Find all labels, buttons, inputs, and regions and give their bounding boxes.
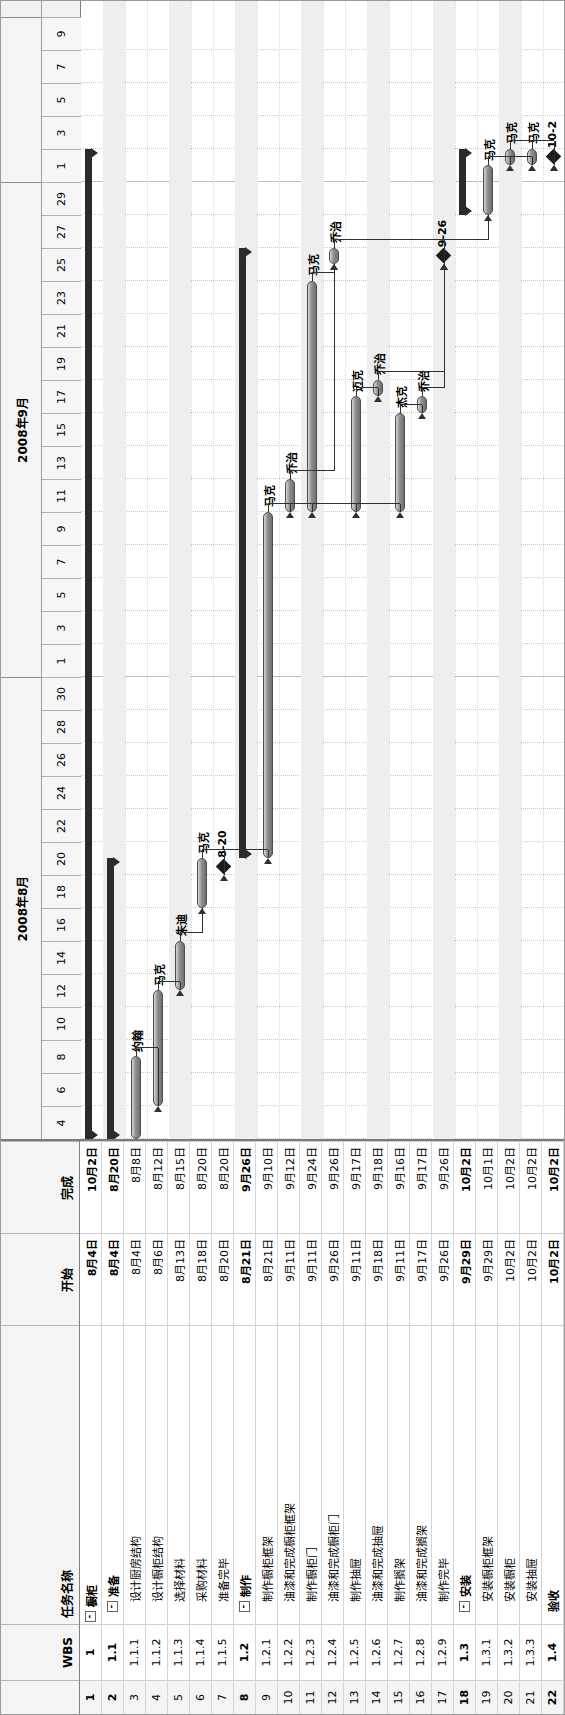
table-row[interactable]: 71.1.5准备完毕8月20日8月20日 <box>212 1141 234 1714</box>
task-name-cell[interactable]: 采购材料 <box>190 1325 211 1624</box>
finish-date-cell[interactable]: 10月2日 <box>80 1141 101 1233</box>
column-header-id[interactable] <box>1 1680 79 1714</box>
gantt-task-bar[interactable] <box>131 1057 141 1140</box>
start-date-cell[interactable]: 9月26日 <box>432 1233 453 1325</box>
collapse-toggle-icon[interactable]: - <box>239 1601 250 1612</box>
start-date-cell[interactable]: 8月21日 <box>234 1233 255 1325</box>
finish-date-cell[interactable]: 8月12日 <box>146 1141 167 1233</box>
start-date-cell[interactable]: 9月11日 <box>300 1233 321 1325</box>
finish-date-cell[interactable]: 8月15日 <box>168 1141 189 1233</box>
task-name-cell[interactable]: 油漆和完成抽屉 <box>366 1325 387 1624</box>
start-date-cell[interactable]: 8月6日 <box>146 1233 167 1325</box>
finish-date-cell[interactable]: 9月26日 <box>322 1141 343 1233</box>
task-name-cell[interactable]: 制作橱柜门 <box>300 1325 321 1624</box>
finish-date-cell[interactable]: 9月10日 <box>256 1141 277 1233</box>
table-row[interactable]: 31.1.1设计厨房结构8月4日8月8日 <box>124 1141 146 1714</box>
column-header-wbs[interactable]: WBS <box>1 1624 79 1680</box>
start-date-cell[interactable]: 9月29日 <box>454 1233 475 1325</box>
task-name-cell[interactable]: 设计橱柜结构 <box>146 1325 167 1624</box>
start-date-cell[interactable]: 10月2日 <box>520 1233 541 1325</box>
task-name-cell[interactable]: -准备 <box>102 1325 123 1624</box>
finish-date-cell[interactable]: 8月20日 <box>102 1141 123 1233</box>
start-date-cell[interactable]: 8月4日 <box>80 1233 101 1325</box>
column-header-name[interactable]: 任务名称 <box>1 1325 79 1624</box>
task-name-cell[interactable]: 制作完毕 <box>432 1325 453 1624</box>
table-row[interactable]: 141.2.6油漆和完成抽屉9月18日9月18日 <box>366 1141 388 1714</box>
task-name-cell[interactable]: 制作橱柜框架 <box>256 1325 277 1624</box>
start-date-cell[interactable]: 8月4日 <box>124 1233 145 1325</box>
collapse-toggle-icon[interactable]: - <box>85 1611 96 1622</box>
gantt-task-bar[interactable] <box>197 859 207 909</box>
start-date-cell[interactable]: 9月11日 <box>344 1233 365 1325</box>
table-row[interactable]: 11-橱柜8月4日10月2日 <box>80 1141 102 1714</box>
task-name-cell[interactable]: 选择材料 <box>168 1325 189 1624</box>
task-name-cell[interactable]: -制作 <box>234 1325 255 1624</box>
task-name-cell[interactable]: 安装抽屉 <box>520 1325 541 1624</box>
start-date-cell[interactable]: 8月18日 <box>190 1233 211 1325</box>
task-name-cell[interactable]: 准备完毕 <box>212 1325 233 1624</box>
table-row[interactable]: 161.2.8油漆和完成搁架9月17日9月17日 <box>410 1141 432 1714</box>
task-name-cell[interactable]: 验收 <box>542 1325 563 1624</box>
collapse-toggle-icon[interactable]: - <box>459 1601 470 1612</box>
task-name-cell[interactable]: 设计厨房结构 <box>124 1325 145 1624</box>
task-name-cell[interactable]: 制作抽屉 <box>344 1325 365 1624</box>
finish-date-cell[interactable]: 9月16日 <box>388 1141 409 1233</box>
gantt-task-bar[interactable] <box>263 512 273 859</box>
table-row[interactable]: 201.3.2安装橱柜10月2日10月2日 <box>498 1141 520 1714</box>
table-row[interactable]: 41.1.2设计橱柜结构8月6日8月12日 <box>146 1141 168 1714</box>
start-date-cell[interactable]: 9月18日 <box>366 1233 387 1325</box>
finish-date-cell[interactable]: 10月1日 <box>476 1141 497 1233</box>
gantt-summary-bar[interactable] <box>107 859 114 1140</box>
table-row[interactable]: 171.2.9制作完毕9月26日9月26日 <box>432 1141 454 1714</box>
table-row[interactable]: 111.2.3制作橱柜门9月11日9月24日 <box>300 1141 322 1714</box>
task-name-cell[interactable]: -安装 <box>454 1325 475 1624</box>
finish-date-cell[interactable]: 9月12日 <box>278 1141 299 1233</box>
start-date-cell[interactable]: 8月4日 <box>102 1233 123 1325</box>
start-date-cell[interactable]: 8月13日 <box>168 1233 189 1325</box>
start-date-cell[interactable]: 9月17日 <box>410 1233 431 1325</box>
finish-date-cell[interactable]: 9月17日 <box>344 1141 365 1233</box>
collapse-toggle-icon[interactable]: - <box>107 1601 118 1612</box>
table-row[interactable]: 81.2-制作8月21日9月26日 <box>234 1141 256 1714</box>
task-name-cell[interactable]: 安装橱柜 <box>498 1325 519 1624</box>
finish-date-cell[interactable]: 10月2日 <box>498 1141 519 1233</box>
gantt-summary-bar[interactable] <box>85 149 92 1139</box>
task-name-cell[interactable]: 制作搁架 <box>388 1325 409 1624</box>
start-date-cell[interactable]: 9月11日 <box>278 1233 299 1325</box>
finish-date-cell[interactable]: 9月26日 <box>234 1141 255 1233</box>
start-date-cell[interactable]: 9月29日 <box>476 1233 497 1325</box>
finish-date-cell[interactable]: 9月24日 <box>300 1141 321 1233</box>
table-row[interactable]: 181.3-安装9月29日10月2日 <box>454 1141 476 1714</box>
finish-date-cell[interactable]: 8月8日 <box>124 1141 145 1233</box>
start-date-cell[interactable]: 10月2日 <box>498 1233 519 1325</box>
gantt-task-bar[interactable] <box>329 248 339 265</box>
finish-date-cell[interactable]: 8月20日 <box>212 1141 233 1233</box>
start-date-cell[interactable]: 8月21日 <box>256 1233 277 1325</box>
table-row[interactable]: 191.3.1安装橱柜框架9月29日10月1日 <box>476 1141 498 1714</box>
gantt-summary-bar[interactable] <box>459 149 466 215</box>
column-header-finish[interactable]: 完成 <box>1 1141 79 1233</box>
table-row[interactable]: 61.1.4采购材料8月18日8月20日 <box>190 1141 212 1714</box>
gantt-task-bar[interactable] <box>395 413 405 512</box>
table-row[interactable]: 131.2.5制作抽屉9月11日9月17日 <box>344 1141 366 1714</box>
gantt-summary-bar[interactable] <box>239 248 246 859</box>
finish-date-cell[interactable]: 10月2日 <box>454 1141 475 1233</box>
start-date-cell[interactable]: 10月2日 <box>542 1233 563 1325</box>
table-row[interactable]: 151.2.7制作搁架9月11日9月16日 <box>388 1141 410 1714</box>
finish-date-cell[interactable]: 10月2日 <box>542 1141 563 1233</box>
finish-date-cell[interactable]: 10月2日 <box>520 1141 541 1233</box>
task-name-cell[interactable]: 油漆和完成搁架 <box>410 1325 431 1624</box>
finish-date-cell[interactable]: 9月26日 <box>432 1141 453 1233</box>
task-name-cell[interactable]: 油漆和完成橱柜框架 <box>278 1325 299 1624</box>
task-name-cell[interactable]: -橱柜 <box>80 1325 101 1624</box>
gantt-task-bar[interactable] <box>351 397 361 513</box>
gantt-bars-area[interactable]: 约翰马克朱迪马克8-20马克乔治马克乔治迈克乔治杰克乔治9-26马克马克马克10… <box>81 1 564 1139</box>
task-name-cell[interactable]: 安装橱柜框架 <box>476 1325 497 1624</box>
finish-date-cell[interactable]: 9月18日 <box>366 1141 387 1233</box>
column-header-start[interactable]: 开始 <box>1 1233 79 1325</box>
table-row[interactable]: 91.2.1制作橱柜框架8月21日9月10日 <box>256 1141 278 1714</box>
task-name-cell[interactable]: 油漆和完成橱柜门 <box>322 1325 343 1624</box>
table-row[interactable]: 21.1-准备8月4日8月20日 <box>102 1141 124 1714</box>
start-date-cell[interactable]: 9月26日 <box>322 1233 343 1325</box>
finish-date-cell[interactable]: 8月20日 <box>190 1141 211 1233</box>
